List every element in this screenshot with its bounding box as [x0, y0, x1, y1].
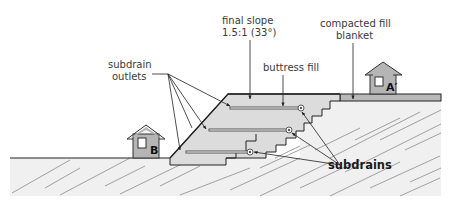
house-b-label: B [150, 144, 158, 157]
house-a-prime-label: A′ [386, 81, 398, 94]
final-slope-label-line1: final slope [222, 15, 273, 26]
compacted-fill-blanket [340, 94, 441, 101]
buttress-fill-label: buttress fill [263, 62, 319, 73]
subdrain-outlets-label-line1: subdrain [108, 59, 152, 70]
subdrain-outlets-label-line2: outlets [112, 71, 146, 82]
buttress-fill-diagram: B A′ subdrain outlets final slope 1.5:1 … [0, 0, 451, 207]
final-slope-label-line2: 1.5:1 (33°) [222, 27, 276, 38]
house-a-prime: A′ [365, 62, 402, 94]
house-b: B [127, 125, 165, 158]
compacted-fill-label-line2: blanket [336, 30, 373, 41]
compacted-fill-label-line1: compacted fill [320, 18, 391, 29]
